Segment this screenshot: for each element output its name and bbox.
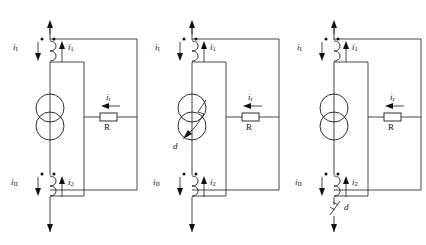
label-current-primary-bottom: iII	[11, 178, 18, 188]
label-resistor: R	[104, 123, 110, 132]
label-resistor: R	[388, 123, 394, 132]
label-fault-d: d	[173, 142, 178, 151]
label-current-primary-top: iI	[13, 43, 18, 53]
fault-arrow-icon	[183, 100, 206, 139]
label-current-resistor: ir	[390, 93, 395, 103]
circuit-schematic-3	[284, 0, 426, 245]
circuit-schematic-2	[142, 0, 284, 245]
circuit-panel-normal: iI i1 iII i2 ir R	[0, 0, 142, 245]
label-current-secondary-top: i1	[352, 43, 358, 53]
circuit-panel-external-fault: iI i1 iII i2 ir R d	[284, 0, 426, 245]
label-current-secondary-bottom: i2	[352, 178, 358, 188]
label-fault-d: d	[344, 203, 349, 212]
label-current-secondary-bottom: i2	[68, 178, 74, 188]
figure-canvas: iI i1 iII i2 ir R	[0, 0, 426, 245]
label-current-resistor: ir	[106, 93, 111, 103]
label-resistor: R	[246, 123, 252, 132]
label-current-primary-top: iI	[155, 43, 160, 53]
label-current-secondary-top: i1	[210, 43, 216, 53]
label-current-primary-bottom: iII	[153, 178, 160, 188]
label-current-primary-top: iI	[297, 43, 302, 53]
circuit-schematic-1	[0, 0, 142, 245]
lightning-fault-icon	[330, 201, 340, 215]
label-current-secondary-top: i1	[68, 43, 74, 53]
label-current-secondary-bottom: i2	[210, 178, 216, 188]
label-current-primary-bottom: iII	[295, 178, 302, 188]
circuit-panel-internal-fault: iI i1 iII i2 ir R d	[142, 0, 284, 245]
label-current-resistor: ir	[248, 93, 253, 103]
